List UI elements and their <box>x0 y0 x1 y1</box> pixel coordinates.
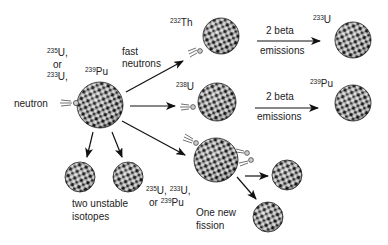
neutron-label: neutron <box>14 98 48 110</box>
element-symbol: Pu <box>172 197 184 208</box>
element-symbol: U <box>324 14 331 25</box>
u233-label: 233U <box>313 14 331 26</box>
or-text: or <box>149 197 161 208</box>
fissile-option-u235: 235U, <box>47 47 68 59</box>
element-symbol: U, <box>58 47 68 58</box>
arrow-to-fragment-2 <box>237 177 256 199</box>
new-fission-nucleus <box>194 138 238 182</box>
unstable-isotopes-line1: two unstable <box>72 198 128 210</box>
diagram-canvas <box>0 0 388 245</box>
beta-bottom-line2: emissions <box>257 111 301 123</box>
u238-label: 238U <box>176 81 194 93</box>
fissile-products-line1: 235U, 233U, <box>146 185 191 197</box>
neutron-to-u238 <box>180 104 195 110</box>
unstable-isotope-2 <box>113 162 143 192</box>
element-symbol: U, <box>181 185 191 196</box>
unstable-isotope-1 <box>65 162 95 192</box>
mass-number: 235 <box>146 185 157 192</box>
mass-number: 239 <box>161 197 172 204</box>
fast-label: fast <box>122 46 138 58</box>
th232-nucleus <box>203 18 239 54</box>
mass-number: 233 <box>170 185 181 192</box>
element-symbol: U <box>187 81 194 92</box>
u238-nucleus <box>198 83 236 121</box>
element-symbol: U, <box>58 71 68 82</box>
arrow-to-isotope-2 <box>112 132 122 157</box>
pu239-label: 239Pu <box>310 78 333 90</box>
th232-label: 232Th <box>170 17 193 29</box>
neutrons-label: neutrons <box>122 58 161 70</box>
fission-fragment-2 <box>253 202 283 232</box>
element-symbol: Pu <box>321 78 333 89</box>
arrow-to-isotope-1 <box>87 132 93 157</box>
neutron-to-fission <box>183 134 198 145</box>
fissile-option-u233: 233U, <box>47 71 68 83</box>
mass-number: 233 <box>47 71 58 78</box>
mass-number: 239 <box>310 78 321 85</box>
pu239-target-label: 239Pu <box>85 66 108 78</box>
fission-fragment-1 <box>272 160 302 190</box>
mass-number: 239 <box>85 66 96 73</box>
mass-number: 238 <box>176 81 187 88</box>
new-fission-line2: fission <box>196 220 224 232</box>
pu239-nucleus <box>335 85 371 121</box>
main-nucleus <box>77 82 123 128</box>
arrow-to-fission <box>122 121 185 155</box>
new-fission-line1: One new <box>196 207 236 219</box>
mass-number: 235 <box>47 47 58 54</box>
incoming-neutron <box>60 100 79 106</box>
fissile-products-line2: or 239Pu <box>149 197 184 209</box>
mass-number: 233 <box>313 14 324 21</box>
unstable-isotopes-line2: isotopes <box>72 211 109 223</box>
element-symbol: U, <box>157 185 170 196</box>
fissile-option-or: or <box>53 59 62 71</box>
element-symbol: Th <box>181 17 193 28</box>
mass-number: 232 <box>170 17 181 24</box>
element-symbol: Pu <box>96 66 108 77</box>
neutron-to-th232 <box>188 48 202 57</box>
beta-top-line1: 2 beta <box>266 25 294 37</box>
u233-nucleus <box>335 22 371 58</box>
beta-top-line2: emissions <box>260 45 304 57</box>
beta-bottom-line1: 2 beta <box>266 91 294 103</box>
